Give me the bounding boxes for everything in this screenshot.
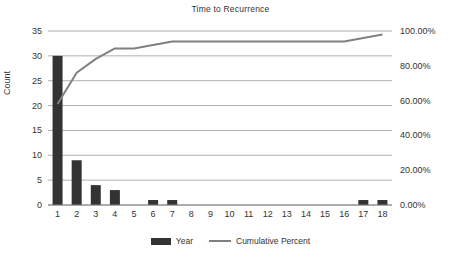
plot-area bbox=[0, 0, 461, 258]
y-tick-label: 20 bbox=[20, 101, 42, 111]
x-tick-label: 3 bbox=[87, 209, 105, 219]
x-tick-label: 10 bbox=[221, 209, 239, 219]
x-tick-label: 4 bbox=[106, 209, 124, 219]
chart-legend: Year Cumulative Percent bbox=[0, 236, 461, 246]
x-tick-label: 7 bbox=[163, 209, 181, 219]
bar bbox=[377, 200, 387, 205]
legend-item-cumulative-percent[interactable]: Cumulative Percent bbox=[209, 236, 310, 246]
cumulative-percent-line bbox=[58, 34, 383, 104]
bar bbox=[110, 190, 120, 205]
x-tick-label: 18 bbox=[373, 209, 391, 219]
y-tick-label: 15 bbox=[20, 125, 42, 135]
y2-tick-label: 20.00% bbox=[400, 165, 431, 175]
x-tick-label: 11 bbox=[240, 209, 258, 219]
y-tick-label: 30 bbox=[20, 51, 42, 61]
y-tick-label: 10 bbox=[20, 150, 42, 160]
x-tick-label: 1 bbox=[49, 209, 67, 219]
bar-swatch-icon bbox=[151, 238, 171, 245]
line-swatch-icon bbox=[209, 240, 231, 242]
y2-tick-label: 40.00% bbox=[400, 130, 431, 140]
x-tick-label: 9 bbox=[201, 209, 219, 219]
bar bbox=[53, 56, 63, 205]
x-tick-label: 12 bbox=[259, 209, 277, 219]
legend-label-year: Year bbox=[176, 236, 193, 246]
x-tick-label: 17 bbox=[354, 209, 372, 219]
bar bbox=[148, 200, 158, 205]
bar bbox=[91, 185, 101, 205]
y-tick-label: 25 bbox=[20, 76, 42, 86]
pareto-chart: Time to Recurrence Count 35302520151050 … bbox=[0, 0, 461, 258]
y2-tick-label: 100.00% bbox=[400, 26, 436, 36]
y-tick-label: 5 bbox=[20, 175, 42, 185]
x-tick-label: 16 bbox=[335, 209, 353, 219]
x-tick-label: 15 bbox=[316, 209, 334, 219]
y2-tick-label: 80.00% bbox=[400, 61, 431, 71]
y-tick-label: 0 bbox=[20, 200, 42, 210]
x-tick-label: 8 bbox=[182, 209, 200, 219]
y2-tick-label: 0.00% bbox=[400, 200, 426, 210]
x-tick-label: 13 bbox=[278, 209, 296, 219]
legend-label-cumulative-percent: Cumulative Percent bbox=[236, 236, 310, 246]
x-tick-label: 14 bbox=[297, 209, 315, 219]
x-tick-label: 5 bbox=[125, 209, 143, 219]
bar bbox=[167, 200, 177, 205]
legend-item-year[interactable]: Year bbox=[151, 236, 193, 246]
y-tick-label: 35 bbox=[20, 26, 42, 36]
x-tick-label: 2 bbox=[68, 209, 86, 219]
bar bbox=[72, 160, 82, 205]
bar bbox=[358, 200, 368, 205]
y2-tick-label: 60.00% bbox=[400, 96, 431, 106]
x-tick-label: 6 bbox=[144, 209, 162, 219]
